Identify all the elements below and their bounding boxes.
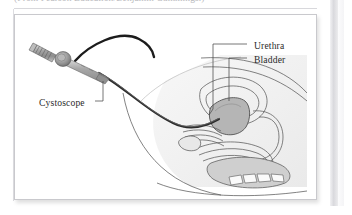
figure-container: Urethra Bladder Cystoscope: [14, 14, 317, 200]
figure-caption-clipped: (From Pearson Education/Benjamin Cumming…: [14, 0, 314, 7]
label-bladder: Bladder: [254, 54, 285, 65]
eyepiece: [29, 43, 56, 62]
caption-divider: [14, 8, 317, 9]
label-cystoscope: Cystoscope: [39, 97, 85, 108]
document-page: (From Pearson Education/Benjamin Cumming…: [0, 0, 352, 215]
page-right-edge-shadow: [330, 0, 338, 206]
label-urethra: Urethra: [254, 40, 284, 51]
light-cable: [75, 36, 154, 61]
page-right-edge-outer: [338, 0, 344, 206]
bladder-organ: [209, 98, 249, 135]
leader-cystoscope: [95, 81, 103, 101]
cystoscope-instrument: [29, 36, 154, 84]
